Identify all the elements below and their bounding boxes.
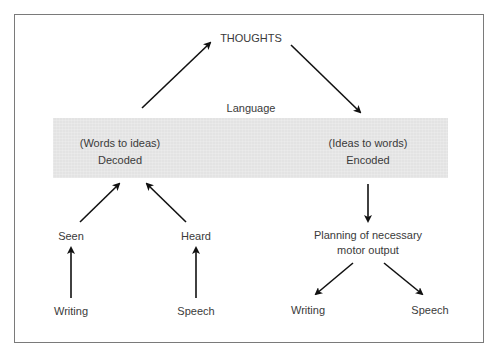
planning-label-line1: Planning of necessary xyxy=(314,229,422,242)
input-writing-label: Writing xyxy=(54,305,88,318)
thoughts-node: THOUGHTS xyxy=(220,32,282,45)
arrow-seen-to-decoded xyxy=(80,184,119,222)
input-speech-label: Speech xyxy=(177,305,214,318)
arrow-planning-to-speech xyxy=(384,263,422,294)
language-label: Language xyxy=(227,102,276,115)
encoded-label: Encoded xyxy=(346,154,389,167)
encode-subtitle: (Ideas to words) xyxy=(329,137,408,150)
planning-label-line2: motor output xyxy=(337,244,399,257)
decoded-label: Decoded xyxy=(98,154,142,167)
output-writing-label: Writing xyxy=(291,304,325,317)
arrows-layer xyxy=(0,0,491,355)
heard-label: Heard xyxy=(181,230,211,243)
output-speech-label: Speech xyxy=(411,304,448,317)
arrow-planning-to-writing xyxy=(316,263,353,294)
arrow-heard-to-decoded xyxy=(147,184,186,222)
arrow-thoughts-to-encoded xyxy=(291,45,360,112)
arrow-decoded-to-thoughts xyxy=(142,43,210,108)
seen-label: Seen xyxy=(58,230,84,243)
decode-subtitle: (Words to ideas) xyxy=(80,137,161,150)
